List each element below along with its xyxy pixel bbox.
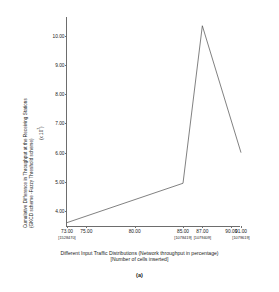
y-axis-tick-mark bbox=[65, 182, 67, 183]
x-axis-tick-label: 80.00 bbox=[129, 229, 141, 234]
x-axis-cell-count-annotation: [1528470] bbox=[58, 235, 75, 240]
y-axis-tick-mark bbox=[65, 94, 67, 95]
x-axis-title-line2: [Number of cells inserted] bbox=[0, 256, 279, 262]
x-axis-tick-label: 73.00 bbox=[61, 229, 73, 234]
y-axis-tick-label: 7.00 bbox=[55, 121, 64, 126]
y-axis-tick-mark bbox=[65, 36, 67, 37]
y-axis-tick-label: 9.00 bbox=[55, 63, 64, 68]
data-series-line bbox=[67, 26, 241, 223]
y-axis-title-line1: Cumulative Difference in Throughput at t… bbox=[23, 98, 28, 228]
y-axis-tick-label: 8.00 bbox=[55, 92, 64, 97]
y-axis-tick-mark bbox=[65, 153, 67, 154]
x-axis-tick-label: 75.00 bbox=[80, 229, 92, 234]
x-axis-tick-label: 91.00 bbox=[235, 229, 247, 234]
line-chart-svg bbox=[67, 17, 241, 227]
y-axis-tick-label: 6.00 bbox=[55, 150, 64, 155]
y-axis-tick-mark bbox=[65, 211, 67, 212]
x-axis-cell-count-annotation: [1078419] bbox=[174, 235, 191, 240]
y-exponent-power: 7 bbox=[37, 128, 41, 130]
figure-container: Cumulative Difference in Throughput at t… bbox=[0, 0, 279, 292]
y-axis-tick-label: 10.00 bbox=[52, 33, 64, 38]
x-axis-cell-count-annotation: [1079619] bbox=[232, 235, 249, 240]
x-axis-tick-label: 87.00 bbox=[196, 229, 208, 234]
figure-caption: (a) bbox=[0, 272, 279, 278]
y-axis-exponent-label: (x 107) bbox=[37, 126, 44, 140]
y-exponent-prefix: (x 10 bbox=[39, 130, 44, 140]
y-axis-title-line2: (GKCD scheme -Fuzzy Threshold scheme) bbox=[29, 138, 34, 228]
plot-area: 4.005.006.007.008.009.0010.0073.0075.008… bbox=[66, 17, 240, 227]
y-exponent-suffix: ) bbox=[39, 126, 44, 128]
y-axis-tick-mark bbox=[65, 65, 67, 66]
x-axis-tick-label: 85.00 bbox=[177, 229, 189, 234]
x-axis-cell-count-annotation: [1079409] bbox=[194, 235, 211, 240]
y-axis-tick-mark bbox=[65, 123, 67, 124]
y-axis-tick-label: 4.00 bbox=[55, 208, 64, 213]
y-axis-tick-label: 5.00 bbox=[55, 179, 64, 184]
